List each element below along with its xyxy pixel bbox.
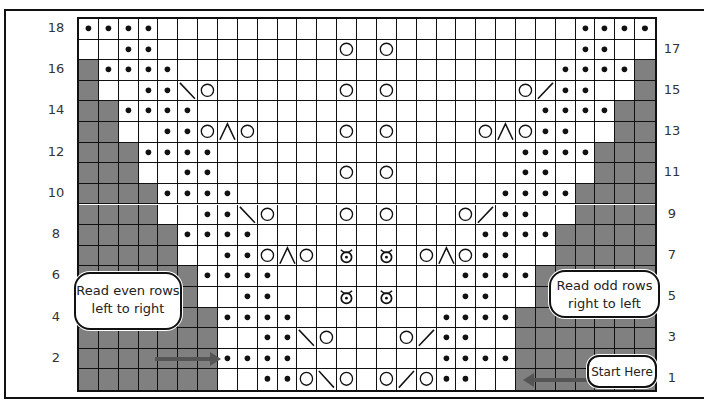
purl-dot-icon (178, 163, 197, 183)
yarn-over-circle-icon (337, 40, 356, 60)
knit-cell (317, 40, 337, 61)
yarn-over-circle-icon (377, 369, 396, 390)
purl-dot-icon (178, 101, 197, 121)
knit-cell (397, 19, 417, 40)
yarn-over-circle-icon (258, 205, 277, 225)
purl-dot-icon (158, 60, 177, 80)
yarn-over-cell (337, 122, 357, 143)
purl-dot-icon (556, 101, 575, 121)
purl-cell (139, 60, 159, 81)
knit-cell (437, 60, 457, 81)
knit-cell (357, 19, 377, 40)
no-stitch-cell (635, 184, 655, 205)
knit-cell (258, 40, 278, 61)
purl-dot-icon (496, 225, 515, 245)
knit-cell (278, 266, 298, 287)
knit-cell (456, 60, 476, 81)
no-stitch-cell (615, 122, 635, 143)
knit-cell (297, 163, 317, 184)
k2tog-cell (397, 369, 417, 390)
yarn-over-circle-icon (377, 40, 396, 60)
knit-cell (357, 122, 377, 143)
knit-cell (397, 266, 417, 287)
purl-cell (476, 246, 496, 267)
purl-dot-icon (476, 349, 495, 369)
purl-cell (99, 19, 119, 40)
purl-dot-icon (516, 225, 535, 245)
purl-dot-icon (615, 60, 634, 80)
no-stitch-cell (99, 328, 119, 349)
purl-cell (178, 163, 198, 184)
purl-cell (476, 266, 496, 287)
knit-cell (139, 163, 159, 184)
knit-cell (615, 81, 635, 102)
odd-rows-note-line2: right to left (551, 295, 658, 313)
twisted-stitch-icon (337, 246, 356, 266)
no-stitch-cell (635, 205, 655, 226)
purl-dot-icon (437, 369, 456, 390)
purl-dot-icon (556, 143, 575, 163)
knit-cell (357, 101, 377, 122)
knit-cell (357, 40, 377, 61)
no-stitch-cell (635, 246, 655, 267)
knit-cell (258, 225, 278, 246)
knit-cell (218, 19, 238, 40)
purl-dot-icon (198, 184, 217, 204)
purl-cell (516, 205, 536, 226)
no-stitch-cell (79, 122, 99, 143)
purl-cell (496, 225, 516, 246)
yarn-over-circle-icon (258, 246, 277, 266)
knit-cell (297, 308, 317, 329)
no-stitch-cell (595, 184, 615, 205)
purl-dot-icon (258, 369, 277, 390)
row-number-6: 6 (44, 267, 68, 282)
purl-cell (556, 184, 576, 205)
purl-dot-icon (198, 163, 217, 183)
purl-dot-icon (536, 184, 555, 204)
knit-cell (357, 349, 377, 370)
knit-cell (516, 40, 536, 61)
knit-cell (417, 184, 437, 205)
knit-cell (218, 40, 238, 61)
knit-cell (357, 184, 377, 205)
no-stitch-cell (635, 101, 655, 122)
knit-cell (556, 19, 576, 40)
knit-cell (595, 122, 615, 143)
purl-cell (556, 81, 576, 102)
purl-cell (476, 225, 496, 246)
knit-cell (139, 122, 159, 143)
start-here-label: Start Here (589, 363, 655, 381)
purl-cell (238, 266, 258, 287)
right-slant-icon (417, 328, 436, 348)
left-slant-icon (238, 205, 257, 225)
knit-cell (238, 81, 258, 102)
yarn-over-cell (198, 81, 218, 102)
purl-cell (139, 101, 159, 122)
yarn-over-cell (337, 205, 357, 226)
ssk-cell (238, 205, 258, 226)
purl-dot-icon (278, 369, 297, 390)
knit-cell (278, 287, 298, 308)
knit-cell (317, 184, 337, 205)
purl-dot-icon (516, 205, 535, 225)
row-number-8: 8 (44, 226, 68, 241)
knit-cell (536, 19, 556, 40)
knit-cell (218, 328, 238, 349)
no-stitch-cell (99, 246, 119, 267)
knit-cell (437, 184, 457, 205)
purl-cell (278, 328, 298, 349)
yarn-over-circle-icon (516, 81, 535, 101)
knit-cell (476, 81, 496, 102)
knit-cell (317, 308, 337, 329)
no-stitch-cell (79, 225, 99, 246)
purl-dot-icon (516, 266, 535, 286)
double-decrease-cell (496, 122, 516, 143)
yarn-over-cell (337, 81, 357, 102)
knit-cell (317, 19, 337, 40)
purl-cell (218, 246, 238, 267)
even-rows-note-line1: Read even rows (76, 282, 180, 300)
double-decrease-cell (218, 122, 238, 143)
purl-cell (456, 349, 476, 370)
knit-cell (437, 287, 457, 308)
yarn-over-cell (476, 122, 496, 143)
